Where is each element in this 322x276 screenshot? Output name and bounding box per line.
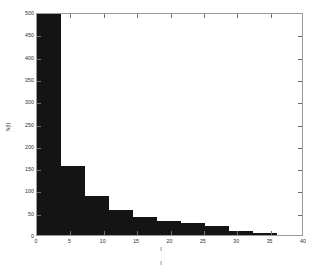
x-tick-label: 35 bbox=[267, 238, 273, 244]
y-tick-mark-right bbox=[298, 103, 302, 104]
x-tick-label: 15 bbox=[133, 238, 139, 244]
histogram-bar bbox=[181, 223, 205, 235]
y-tick-mark bbox=[37, 59, 41, 60]
x-tick-mark-top bbox=[104, 14, 105, 18]
histogram-bar bbox=[37, 13, 61, 235]
y-tick-mark bbox=[37, 81, 41, 82]
x-tick-label: 40 bbox=[300, 238, 306, 244]
x-tick-mark bbox=[271, 231, 272, 235]
x-tick-mark bbox=[70, 231, 71, 235]
x-tick-mark-top bbox=[171, 14, 172, 18]
x-tick-mark bbox=[104, 231, 105, 235]
x-axis-caption: l bbox=[0, 260, 322, 266]
y-tick-label: 300 bbox=[25, 99, 34, 105]
y-tick-mark bbox=[37, 215, 41, 216]
x-tick-label: 20 bbox=[167, 238, 173, 244]
y-tick-label: 0 bbox=[31, 233, 34, 239]
y-tick-label: 50 bbox=[28, 211, 34, 217]
y-tick-mark-right bbox=[298, 36, 302, 37]
y-tick-mark bbox=[37, 170, 41, 171]
x-tick-mark bbox=[137, 231, 138, 235]
histogram-bar bbox=[253, 233, 277, 235]
y-tick-mark-right bbox=[298, 215, 302, 216]
histogram-bars bbox=[37, 14, 302, 235]
x-axis-title: l bbox=[0, 246, 322, 252]
y-tick-mark-right bbox=[298, 192, 302, 193]
y-tick-mark bbox=[37, 126, 41, 127]
histogram-bar bbox=[229, 231, 253, 235]
y-tick-mark-right bbox=[298, 59, 302, 60]
y-tick-label: 250 bbox=[25, 122, 34, 128]
y-tick-label: 150 bbox=[25, 166, 34, 172]
x-tick-mark-top bbox=[137, 14, 138, 18]
x-tick-label: 30 bbox=[233, 238, 239, 244]
y-tick-mark bbox=[37, 36, 41, 37]
x-tick-mark-top bbox=[70, 14, 71, 18]
y-tick-mark-right bbox=[298, 170, 302, 171]
y-tick-mark-right bbox=[298, 126, 302, 127]
histogram-bar bbox=[109, 210, 133, 235]
x-tick-mark bbox=[237, 231, 238, 235]
y-tick-label: 350 bbox=[25, 77, 34, 83]
y-tick-mark bbox=[37, 148, 41, 149]
histogram-bar bbox=[85, 196, 109, 235]
histogram-bar bbox=[61, 166, 85, 235]
plot-area bbox=[36, 13, 303, 236]
x-tick-mark-top bbox=[204, 14, 205, 18]
histogram-bar bbox=[157, 221, 181, 235]
x-tick-mark-top bbox=[271, 14, 272, 18]
x-tick-label: 0 bbox=[35, 238, 38, 244]
y-tick-mark bbox=[37, 103, 41, 104]
y-tick-label: 450 bbox=[25, 32, 34, 38]
y-tick-mark-right bbox=[298, 81, 302, 82]
x-tick-mark bbox=[204, 231, 205, 235]
histogram-bar bbox=[205, 226, 229, 235]
x-tick-mark-top bbox=[237, 14, 238, 18]
y-tick-mark-right bbox=[298, 148, 302, 149]
y-axis-title: N(l) bbox=[5, 123, 11, 131]
x-tick-label: 25 bbox=[200, 238, 206, 244]
x-tick-label: 5 bbox=[68, 238, 71, 244]
x-tick-label: 10 bbox=[100, 238, 106, 244]
y-tick-label: 500 bbox=[25, 10, 34, 16]
x-tick-mark bbox=[171, 231, 172, 235]
y-tick-label: 100 bbox=[25, 188, 34, 194]
y-tick-label: 200 bbox=[25, 144, 34, 150]
y-tick-label: 400 bbox=[25, 55, 34, 61]
figure-canvas: 0510152025303540 05010015020025030035040… bbox=[0, 0, 322, 276]
y-tick-mark bbox=[37, 192, 41, 193]
